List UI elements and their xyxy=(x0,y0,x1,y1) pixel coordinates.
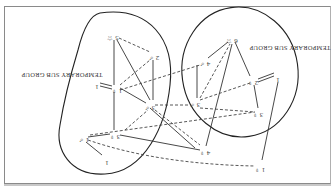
edge-dashed xyxy=(200,83,250,100)
node-label: 5 ☆ xyxy=(107,34,118,42)
node-label: 2 ♀ xyxy=(248,79,259,87)
edge-dashed xyxy=(88,140,255,166)
node-label: 1 ♀ xyxy=(255,166,266,174)
group-outline-right xyxy=(174,0,307,144)
node-label: 3 ♀ xyxy=(253,111,264,119)
group-label-right: TEMPORARY SUB GROUP xyxy=(249,45,330,52)
edge xyxy=(206,44,232,146)
edge-dashed xyxy=(155,110,200,145)
sociogram: 5 ☆ 2 ♂ 1 ♀ 1 3 ♂ 3 ♂ 4 ♂ 6 ☆ 2 ♀ 1 3 ♀ … xyxy=(0,0,336,193)
node-label: 1 ♀ xyxy=(112,87,123,95)
edge-dashed xyxy=(120,65,200,90)
edge xyxy=(235,42,250,76)
edge-dashed xyxy=(119,38,150,52)
node-label: 4 ♂ xyxy=(200,60,211,68)
node-label: 1 xyxy=(95,83,99,91)
node-label: 6 ☆ xyxy=(226,37,237,45)
edge-double xyxy=(100,86,112,89)
node-label: 3 ♂ xyxy=(190,101,201,109)
edge xyxy=(120,88,146,103)
edge xyxy=(120,135,200,150)
node-label: 3 ♂ xyxy=(145,104,156,112)
edge-double xyxy=(258,76,274,82)
edge-double xyxy=(100,83,112,86)
node-label: 4 ♀ xyxy=(200,149,211,157)
node-label: 2 ♂ xyxy=(149,54,160,62)
edge xyxy=(208,42,228,58)
node-label: 3 ♀ xyxy=(110,133,121,141)
edge-double xyxy=(258,73,274,79)
edge-dashed xyxy=(200,108,255,112)
node-label: 1 ♂ xyxy=(79,136,90,144)
group-label-left: TEMPORARY SUB GROUP xyxy=(21,72,102,79)
edge xyxy=(254,85,258,108)
node-label: 1 xyxy=(105,159,109,167)
node-label: 1 xyxy=(276,76,280,84)
edge xyxy=(262,82,278,160)
